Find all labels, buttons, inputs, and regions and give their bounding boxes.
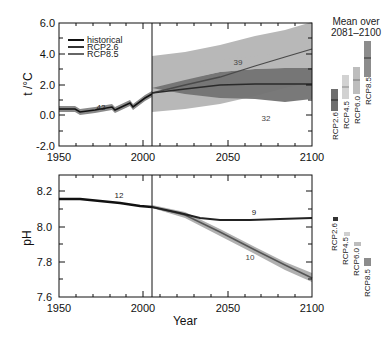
side-label-rcp26: RCP2.6	[331, 111, 340, 140]
legend-rcp85: RCP8.5	[87, 49, 119, 59]
temperature-chart: 6.0 4.0 2.0 0.0 -2.0 1950 2000 2050 2100…	[21, 16, 381, 163]
ph-ytick: 7.8	[37, 256, 52, 268]
ph-side-label-rcp26: RCP2.6	[330, 222, 339, 251]
ph-xtick: 2050	[216, 302, 240, 314]
ph-chart: 8.2 8.0 7.8 7.6 1950 2000 2050 2100 pH Y…	[20, 175, 372, 328]
ph-side-panel: RCP2.6 RCP4.5 RCP6.0 RCP8.5	[330, 217, 372, 297]
ph-ylabel: pH	[20, 230, 34, 245]
ph-historical-line	[59, 199, 152, 207]
side-label-rcp60: RCP6.0	[353, 95, 362, 124]
ph-rcp85-band	[152, 205, 312, 282]
temperature-xtick: 1950	[47, 151, 71, 163]
side-bar-rcp85	[364, 41, 371, 77]
annotation-32: 32	[262, 114, 271, 123]
ph-side-bar-rcp45	[344, 232, 350, 236]
temperature-ylabel: t /°C	[21, 72, 35, 96]
temperature-ytick: 4.0	[40, 48, 55, 60]
ph-side-label-rcp45: RCP4.5	[341, 236, 350, 265]
figure: 6.0 4.0 2.0 0.0 -2.0 1950 2000 2050 2100…	[0, 0, 391, 342]
temperature-ytick: 6.0	[40, 17, 55, 29]
ph-plot-frame	[59, 175, 312, 297]
ph-side-bar-rcp60	[354, 242, 361, 246]
temperature-xtick: 2050	[216, 151, 240, 163]
ph-xtick: 1950	[47, 302, 71, 314]
temperature-legend: historical RCP2.6 RCP8.5	[68, 35, 123, 59]
side-title-line2: 2081–2100	[331, 27, 381, 38]
temperature-xtick: 2100	[300, 151, 324, 163]
ph-ticks	[59, 175, 312, 297]
ph-side-bar-rcp85	[364, 258, 371, 266]
ph-ytick: 8.0	[37, 221, 52, 233]
temperature-ytick: 2.0	[40, 79, 55, 91]
temperature-ytick: 0.0	[40, 109, 55, 121]
ph-ytick: 8.2	[37, 185, 52, 197]
side-label-rcp45: RCP4.5	[342, 100, 351, 129]
ph-xtick: 2100	[300, 302, 324, 314]
annotation-10: 10	[246, 253, 255, 262]
annotation-39: 39	[234, 58, 243, 67]
side-title-line1: Mean over	[332, 16, 380, 27]
annotation-42: 42	[97, 103, 106, 112]
ph-side-bar-rcp26	[333, 217, 338, 221]
ph-xtick: 2000	[131, 302, 155, 314]
annotation-12: 12	[115, 191, 124, 200]
ph-side-label-rcp85: RCP8.5	[363, 268, 372, 297]
ph-side-label-rcp60: RCP6.0	[352, 247, 361, 276]
temperature-side-panel: Mean over 2081–2100 RCP2.6 RCP4.5 RCP6.0…	[331, 16, 381, 140]
xlabel-year: Year	[173, 314, 197, 328]
temperature-xtick: 2000	[131, 151, 155, 163]
side-label-rcp85: RCP8.5	[364, 76, 373, 105]
annotation-9: 9	[252, 208, 257, 217]
